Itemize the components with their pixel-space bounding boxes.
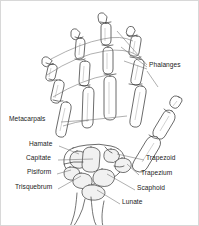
bone-trapezium: [115, 158, 131, 173]
label-trisquebrum: Trisquebrum: [15, 183, 52, 190]
label-lunate: Lunate: [122, 198, 142, 205]
hand-skeleton-figure: .bone { fill:#ffffff; stroke:#3a3a3a; st…: [0, 0, 199, 226]
bone-scaphoid: [93, 169, 115, 187]
label-trapezium: Trapezium: [141, 169, 172, 176]
label-pisiform: Pisiform: [27, 168, 51, 175]
label-metacarpals: Metacarpals: [9, 115, 45, 122]
label-trapezoid: Trapezoid: [146, 154, 176, 161]
hand-skeleton-illustration: .bone { fill:#ffffff; stroke:#3a3a3a; st…: [1, 1, 199, 226]
label-capitate: Capitate: [26, 154, 51, 161]
label-phalanges: Phalanges: [149, 61, 181, 68]
label-scaphoid: Scaphoid: [137, 184, 165, 191]
bone-capitate: [82, 147, 100, 172]
label-hamate: Hamate: [29, 140, 52, 147]
